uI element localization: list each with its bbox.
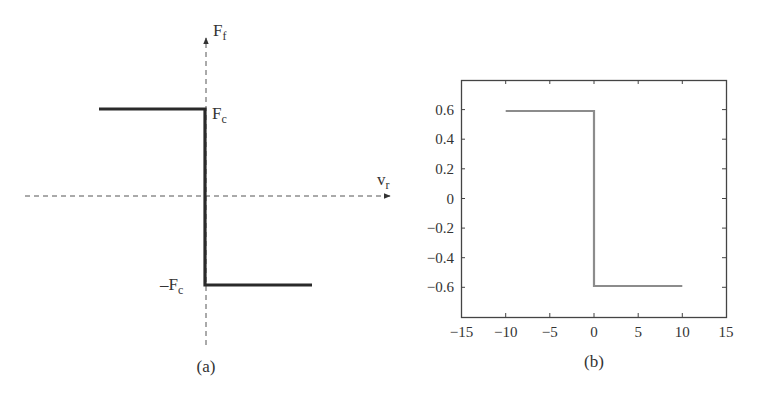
x-axis-label: vr: [377, 170, 390, 192]
svg-text:−0.6: −0.6: [427, 279, 455, 295]
svg-text:−5: −5: [542, 324, 558, 340]
svg-text:−15: −15: [450, 324, 473, 340]
svg-text:10: 10: [675, 324, 690, 340]
x-tick-labels: −15 −10 −5 0 5 10 15: [450, 324, 734, 340]
svg-text:0: 0: [447, 191, 455, 207]
svg-text:15: 15: [719, 324, 734, 340]
svg-text:−0.4: −0.4: [427, 250, 455, 266]
svg-text:0.2: 0.2: [435, 161, 454, 177]
figure: Ff vr Fc –Fc (a) 0.6 0.4 0: [0, 0, 760, 394]
svg-text:−0.2: −0.2: [427, 220, 454, 236]
upper-level-label: Fc: [212, 104, 227, 126]
friction-data-line: [506, 111, 683, 286]
panel-a: Ff vr Fc –Fc (a): [25, 21, 390, 376]
caption-b: (b): [584, 352, 604, 371]
friction-curve: [99, 109, 312, 285]
caption-a: (a): [197, 357, 216, 376]
svg-text:0.4: 0.4: [435, 131, 454, 147]
svg-text:0: 0: [590, 324, 598, 340]
panel-b: 0.6 0.4 0.2 0 −0.2 −0.4 −0.6 −15 −10 −5 …: [427, 80, 734, 371]
svg-text:−10: −10: [494, 324, 517, 340]
svg-text:5: 5: [634, 324, 642, 340]
svg-text:0.6: 0.6: [435, 102, 454, 118]
y-axis-label: Ff: [213, 21, 226, 43]
lower-level-label: –Fc: [159, 275, 183, 297]
y-tick-labels: 0.6 0.4 0.2 0 −0.2 −0.4 −0.6: [427, 102, 455, 296]
